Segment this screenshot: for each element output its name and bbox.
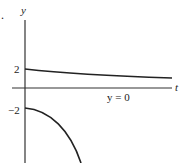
- upper-solution-curve: [25, 69, 172, 78]
- t-axis-label: t: [175, 81, 179, 93]
- phase-line-plot: . y t 2 −2 y = 0: [0, 0, 184, 163]
- bullet-marker: .: [1, 8, 4, 22]
- lower-solution-curve: [25, 108, 81, 163]
- tick-label-neg-2: −2: [8, 104, 20, 116]
- equilibrium-label: y = 0: [107, 91, 130, 103]
- tick-label-2: 2: [14, 63, 20, 75]
- y-axis-label: y: [20, 4, 26, 16]
